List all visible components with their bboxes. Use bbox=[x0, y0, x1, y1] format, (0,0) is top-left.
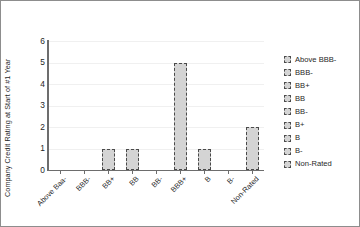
legend-item: BB bbox=[284, 92, 358, 105]
y-axis-tick-label: 0 bbox=[31, 166, 45, 174]
legend-swatch-icon bbox=[284, 161, 291, 168]
legend-swatch-icon bbox=[284, 122, 291, 129]
x-axis-tick-label: B- bbox=[231, 170, 242, 181]
x-axis-tick-mark bbox=[60, 171, 61, 174]
gridline bbox=[48, 106, 264, 107]
legend-item: B bbox=[284, 132, 358, 145]
legend-item-label: Above BBB- bbox=[295, 56, 336, 64]
x-axis-tick-mark bbox=[84, 171, 85, 174]
legend-item-label: BB bbox=[295, 95, 305, 103]
legend-item: BBB- bbox=[284, 66, 358, 79]
x-axis-tick-label: B bbox=[207, 172, 216, 181]
plot-area bbox=[48, 41, 264, 170]
y-axis-tick-label: 3 bbox=[31, 101, 45, 109]
legend-swatch-icon bbox=[284, 82, 291, 89]
x-axis-tick-mark bbox=[156, 171, 157, 174]
x-axis-tick-mark bbox=[132, 171, 133, 174]
y-axis-title-container: Company Credit Rating at Start of #1 Yea… bbox=[3, 1, 19, 201]
y-axis-tick-label: 4 bbox=[31, 80, 45, 88]
gridline bbox=[48, 149, 264, 150]
legend-item-label: BBB- bbox=[295, 69, 313, 77]
bar bbox=[126, 149, 139, 171]
y-axis-line bbox=[47, 40, 49, 171]
legend-item: B+ bbox=[284, 118, 358, 131]
x-axis-tick-mark bbox=[228, 171, 229, 174]
chart-legend: Above BBB-BBB-BB+BBBB-B+BB-Non-Rated bbox=[284, 53, 358, 171]
chart-figure: Company Credit Rating at Start of #1 Yea… bbox=[0, 0, 360, 227]
bar bbox=[174, 63, 187, 171]
legend-item: BB- bbox=[284, 105, 358, 118]
y-axis-tick-label: 1 bbox=[31, 144, 45, 152]
legend-item: Non-Rated bbox=[284, 158, 358, 171]
legend-item-label: Non-Rated bbox=[295, 160, 332, 168]
x-axis-tick-mark bbox=[108, 171, 109, 174]
x-axis-tick-mark bbox=[204, 171, 205, 174]
legend-swatch-icon bbox=[284, 108, 291, 115]
y-axis-tick-label: 2 bbox=[31, 123, 45, 131]
legend-swatch-icon bbox=[284, 56, 291, 63]
legend-item-label: BB+ bbox=[295, 82, 310, 90]
legend-item-label: B- bbox=[295, 147, 303, 155]
legend-swatch-icon bbox=[284, 135, 291, 142]
legend-swatch-icon bbox=[284, 69, 291, 76]
bar bbox=[246, 127, 259, 170]
gridline bbox=[48, 127, 264, 128]
legend-item: B- bbox=[284, 145, 358, 158]
x-axis-tick-mark bbox=[252, 171, 253, 174]
legend-item: Above BBB- bbox=[284, 53, 358, 66]
legend-swatch-icon bbox=[284, 148, 291, 155]
gridline bbox=[48, 84, 264, 85]
legend-item-label: B+ bbox=[295, 121, 305, 129]
y-axis-tick-label: 5 bbox=[31, 58, 45, 66]
gridline bbox=[48, 63, 264, 64]
legend-swatch-icon bbox=[284, 95, 291, 102]
y-axis-title: Company Credit Rating at Start of #1 Yea… bbox=[3, 59, 12, 197]
legend-item-label: B bbox=[295, 134, 300, 142]
legend-item: BB+ bbox=[284, 79, 358, 92]
gridline bbox=[48, 41, 264, 42]
x-axis-tick-mark bbox=[180, 171, 181, 174]
y-axis-tick-label: 6 bbox=[31, 37, 45, 45]
legend-item-label: BB- bbox=[295, 108, 308, 116]
